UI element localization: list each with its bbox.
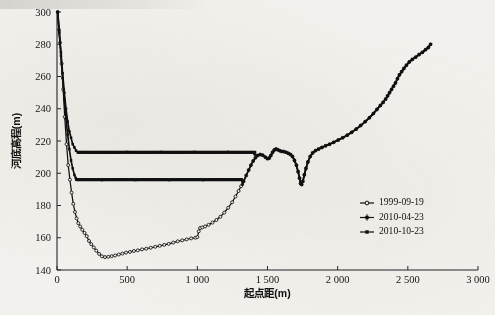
- data-point: [196, 236, 199, 239]
- data-point: [70, 191, 73, 194]
- data-point: [125, 251, 128, 254]
- data-point: [197, 230, 200, 233]
- data-point: [382, 101, 385, 104]
- y-tick-label: 140: [35, 265, 51, 276]
- legend-label[interactable]: 2010-10-23: [379, 225, 424, 236]
- data-point: [190, 237, 193, 240]
- data-point: [314, 149, 317, 152]
- data-point: [68, 130, 71, 133]
- data-point: [81, 228, 84, 231]
- data-point: [302, 180, 305, 183]
- data-point: [405, 64, 408, 67]
- y-tick-label: 220: [35, 136, 51, 147]
- data-point: [252, 160, 255, 163]
- data-point: [72, 202, 75, 205]
- data-point: [56, 11, 59, 14]
- data-point: [73, 210, 76, 213]
- data-point: [394, 82, 397, 85]
- data-point: [298, 177, 301, 180]
- data-point: [350, 131, 353, 134]
- data-point: [73, 146, 76, 149]
- data-point: [68, 178, 71, 181]
- data-point: [100, 255, 103, 258]
- data-point: [149, 246, 152, 249]
- data-point: [163, 243, 166, 246]
- data-point: [328, 143, 331, 146]
- data-point: [103, 256, 106, 259]
- data-point: [132, 249, 135, 252]
- data-point: [270, 154, 273, 157]
- data-point: [287, 152, 290, 155]
- data-point: [429, 43, 432, 46]
- y-tick-label: 160: [35, 232, 51, 243]
- data-point: [240, 178, 243, 181]
- plot-background: [0, 0, 495, 315]
- data-point: [398, 74, 401, 77]
- data-point: [136, 249, 139, 252]
- data-point: [85, 235, 88, 238]
- data-point: [231, 201, 234, 204]
- data-point: [154, 245, 157, 248]
- data-point: [63, 98, 66, 101]
- data-point: [219, 215, 222, 218]
- data-point: [400, 70, 403, 73]
- x-tick-label: 500: [119, 274, 135, 285]
- data-point: [305, 167, 308, 170]
- legend-label[interactable]: 1999-09-19: [379, 196, 424, 207]
- y-tick-label: 280: [35, 39, 51, 50]
- data-point: [83, 231, 86, 234]
- data-point: [107, 255, 110, 258]
- data-point: [321, 146, 324, 149]
- data-point: [90, 243, 93, 246]
- data-point: [70, 137, 73, 140]
- y-tick-label: 240: [35, 103, 51, 114]
- data-point: [392, 85, 395, 88]
- data-point: [411, 58, 414, 61]
- data-point: [211, 221, 214, 224]
- data-point: [167, 242, 170, 245]
- y-tick-label: 260: [35, 71, 51, 82]
- y-axis-title: 河底高程(m): [10, 113, 22, 169]
- data-point: [268, 157, 271, 160]
- data-point: [145, 247, 148, 250]
- data-point: [176, 240, 179, 243]
- data-point: [71, 143, 74, 146]
- data-point: [427, 46, 430, 49]
- data-point: [215, 219, 218, 222]
- data-point: [65, 143, 68, 146]
- data-point: [204, 225, 207, 228]
- data-point: [261, 154, 264, 157]
- data-point: [117, 253, 120, 256]
- y-tick-label: 200: [35, 168, 51, 179]
- data-point: [121, 252, 124, 255]
- data-point: [324, 145, 327, 148]
- data-point: [172, 241, 175, 244]
- data-point: [346, 134, 349, 137]
- data-point: [67, 164, 70, 167]
- data-point: [280, 150, 283, 153]
- data-point: [227, 206, 230, 209]
- data-point: [66, 133, 69, 136]
- data-point: [341, 137, 344, 140]
- data-point: [254, 157, 257, 160]
- data-point: [368, 117, 371, 120]
- data-point: [60, 54, 63, 57]
- data-point: [408, 61, 411, 64]
- data-point: [271, 151, 274, 154]
- data-point: [379, 104, 382, 107]
- chart-canvas: [0, 0, 495, 315]
- x-tick-label: 3 000: [466, 274, 490, 285]
- data-point: [65, 117, 68, 120]
- data-point: [71, 167, 74, 170]
- data-point: [253, 151, 256, 154]
- data-point: [141, 248, 144, 251]
- data-point: [110, 255, 113, 258]
- data-point: [414, 56, 417, 59]
- data-point: [300, 183, 303, 186]
- legend-label[interactable]: 2010-04-23: [379, 211, 424, 222]
- data-point: [384, 98, 387, 101]
- data-point: [68, 148, 71, 151]
- data-point: [309, 155, 312, 158]
- data-point: [386, 95, 389, 98]
- data-point: [61, 77, 64, 80]
